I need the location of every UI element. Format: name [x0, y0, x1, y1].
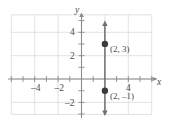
graph-canvas	[0, 0, 175, 124]
point-label-2-neg1: (2, –1)	[110, 92, 134, 101]
x-tick-label-minus4: –4	[31, 84, 41, 94]
vertical-line-x-equals-2	[102, 21, 107, 117]
y-tick-label-4: 4	[70, 28, 75, 38]
x-axis	[8, 77, 157, 82]
coordinate-graph: –4 –2 4 4 2 –2 x y (2, 3) (2, –1)	[0, 0, 175, 124]
y-axis-label: y	[75, 6, 79, 16]
x-axis-label: x	[157, 78, 161, 88]
y-tick-label-minus2: –2	[65, 99, 75, 109]
x-tick-label-minus2: –2	[55, 84, 65, 94]
point-2-neg1	[102, 88, 108, 94]
y-tick-label-2: 2	[70, 52, 75, 62]
point-2-3	[102, 41, 108, 47]
point-label-2-3: (2, 3)	[110, 45, 130, 54]
